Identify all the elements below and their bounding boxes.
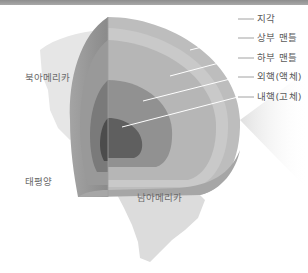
leader-line-upper-mantle bbox=[190, 38, 238, 50]
light-cone bbox=[240, 70, 308, 190]
label-pacific: 태평양 bbox=[25, 177, 52, 187]
label-upper-mantle: 상부 맨틀 bbox=[257, 33, 297, 43]
label-lower-mantle: 하부 맨틀 bbox=[257, 53, 297, 63]
label-inner-core: 내핵(고체) bbox=[257, 92, 302, 102]
label-outer-core: 외핵(액체) bbox=[257, 72, 302, 82]
label-north-america: 북아메리카 bbox=[25, 73, 70, 83]
label-south-america: 남아메리카 bbox=[137, 193, 182, 203]
label-crust: 지각 bbox=[257, 14, 275, 24]
leader-line-crust bbox=[180, 19, 238, 33]
